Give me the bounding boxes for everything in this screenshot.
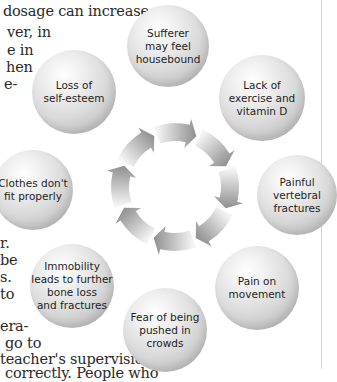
cycle-arrow-icon <box>154 119 196 148</box>
cycle-arrow-icon <box>154 226 196 255</box>
bubble-label: Fear of being pushed in crowds <box>131 311 200 350</box>
bubble-label: Immobility leads to further bone loss an… <box>31 260 112 312</box>
bubble-sufferer-housebound: Sufferer may feel housebound <box>127 5 209 87</box>
bubble-fear-crowds: Fear of being pushed in crowds <box>123 288 207 372</box>
bubble-label: Pain on movement <box>229 275 286 301</box>
cycle-arrow-icon <box>214 166 243 208</box>
bubble-label: Clothes don't fit properly <box>0 177 68 203</box>
bubble-loss-self-esteem: Loss of self-esteem <box>32 50 116 134</box>
bubble-label: Lack of exercise and vitamin D <box>229 79 295 118</box>
cycle-arrow-icon <box>115 208 154 245</box>
bubble-lack-exercise: Lack of exercise and vitamin D <box>219 55 305 141</box>
bubble-label: Sufferer may feel housebound <box>136 27 201 66</box>
cycle-arrow-icon <box>117 127 154 166</box>
bubble-label: Loss of self-esteem <box>44 79 105 105</box>
cycle-arrow-icon <box>195 129 234 166</box>
bubble-pain-movement: Pain on movement <box>215 246 299 330</box>
cycle-arrow-icon <box>196 207 233 246</box>
bubble-label: Painful vertebral fractures <box>273 176 321 215</box>
cycle-arrow-icon <box>107 166 136 208</box>
bubble-painful-fractures: Painful vertebral fractures <box>257 155 337 235</box>
bubble-immobility: Immobility leads to further bone loss an… <box>30 244 114 328</box>
